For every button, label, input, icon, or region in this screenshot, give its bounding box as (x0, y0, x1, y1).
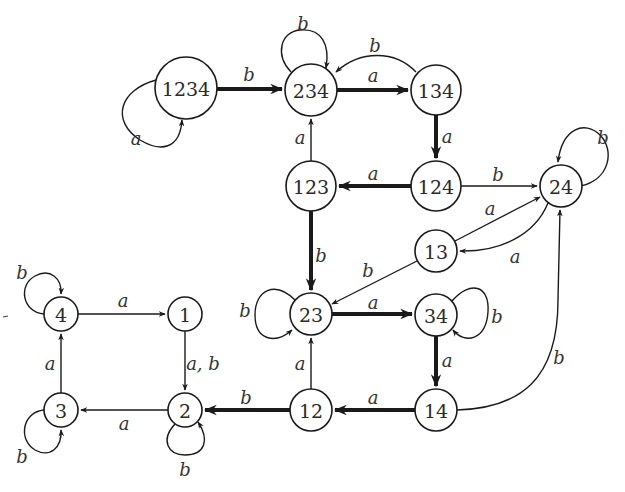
edge-arrow (455, 197, 540, 241)
edge-1-to-2: a, b (185, 331, 220, 390)
edge-124-to-24: b (461, 164, 537, 187)
edge-13-to-24: a (455, 197, 540, 241)
edge-1234-to-234: b (217, 64, 282, 90)
state-node-1234: 1234 (155, 57, 217, 119)
state-label: 124 (418, 176, 454, 198)
edge-34-to-14: a (436, 336, 452, 386)
edge-label: a (45, 353, 56, 374)
edge-label: a (368, 163, 379, 184)
edge-label: b (16, 446, 28, 467)
edge-label: a (119, 413, 130, 434)
state-node-23: 23 (290, 293, 332, 335)
edge-23-to-23: b (239, 289, 295, 338)
edge-label: a (295, 127, 306, 148)
state-label: 34 (424, 305, 448, 327)
edge-12-to-2: b (205, 387, 290, 411)
edge-arrow (460, 203, 548, 251)
state-node-234: 234 (285, 64, 337, 116)
state-label: 1 (179, 304, 191, 326)
edge-arrow (255, 289, 295, 338)
state-label: 234 (293, 80, 329, 102)
state-node-24: 24 (540, 165, 582, 207)
edge-label: a (368, 387, 379, 408)
edge-234-to-234: b (281, 13, 326, 73)
edge-14-to-24: b (457, 210, 565, 410)
state-label: 3 (55, 400, 67, 422)
state-node-2: 2 (168, 393, 202, 427)
state-node-134: 134 (411, 65, 461, 115)
edge-12-to-23: a (295, 338, 311, 389)
state-node-4: 4 (44, 297, 78, 331)
edge-label: b (315, 245, 327, 266)
edge-label: a (510, 246, 521, 267)
edge-label: a (295, 353, 306, 374)
edge-label: a (442, 350, 453, 371)
edge-label: b (179, 459, 191, 480)
state-node-34: 34 (415, 294, 457, 336)
edge-label: a (118, 290, 129, 311)
edge-label: b (553, 347, 565, 368)
edge-34-to-34: b (452, 288, 503, 338)
edge-234-to-134: a (337, 65, 408, 91)
edge-label: a (485, 198, 496, 219)
edge-label: b (243, 64, 255, 85)
state-node-13: 13 (415, 230, 457, 272)
state-label: 14 (424, 400, 448, 422)
state-node-124: 124 (411, 161, 461, 211)
state-label: 4 (55, 304, 67, 326)
state-label: 24 (549, 176, 573, 198)
state-node-12: 12 (290, 389, 332, 431)
edge-label: b (297, 13, 309, 34)
edge-arrow (457, 210, 560, 410)
state-node-1: 1 (168, 297, 202, 331)
edge-label: a, b (186, 353, 220, 374)
state-label: 13 (424, 241, 448, 263)
edge-label: a (368, 65, 379, 86)
state-label: 23 (299, 304, 323, 326)
edge-134-to-124: a (436, 115, 452, 158)
edge-2-to-2: b (167, 422, 204, 480)
edge-label: b (362, 260, 374, 281)
edge-label: b (597, 127, 609, 148)
edge-14-to-12: a (335, 387, 415, 411)
state-node-14: 14 (415, 389, 457, 431)
edge-label: b (239, 300, 251, 321)
edge-124-to-123: a (339, 163, 411, 187)
state-label: 123 (293, 176, 329, 198)
edge-2-to-3: a (81, 410, 168, 434)
stray-mark (3, 316, 8, 317)
edge-24-to-13: a (460, 203, 548, 267)
edge-123-to-234: a (295, 119, 311, 161)
edge-label: b (491, 306, 503, 327)
edge-label: a (131, 128, 142, 149)
edge-123-to-23: b (311, 211, 327, 290)
edge-4-to-1: a (78, 290, 165, 315)
edge-label: b (492, 164, 504, 185)
edge-label: b (240, 387, 252, 408)
edge-label: a (442, 126, 453, 147)
edge-3-to-4: a (45, 334, 61, 393)
edge-label: b (16, 262, 28, 283)
state-label: 12 (299, 400, 323, 422)
state-label: 1234 (162, 78, 210, 100)
state-label: 2 (179, 400, 191, 422)
state-label: 134 (418, 80, 454, 102)
edge-23-to-34: a (332, 292, 412, 315)
edge-label: a (368, 292, 379, 313)
edge-label: b (369, 35, 381, 56)
automaton-diagram: abbbaaaabbaabbbababaaba, bbababa 1234234… (0, 0, 625, 492)
state-node-3: 3 (44, 393, 78, 427)
state-node-123: 123 (286, 161, 336, 211)
